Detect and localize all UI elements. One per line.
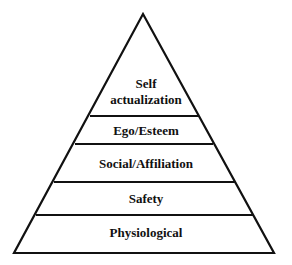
level-self-actualization-line2: actualization xyxy=(0,92,292,107)
level-self-actualization-line1: Self xyxy=(0,76,292,91)
level-safety: Safety xyxy=(0,191,292,206)
level-social-affiliation: Social/Affiliation xyxy=(0,156,292,171)
level-ego-esteem: Ego/Esteem xyxy=(0,123,292,138)
level-physiological: Physiological xyxy=(0,225,292,240)
